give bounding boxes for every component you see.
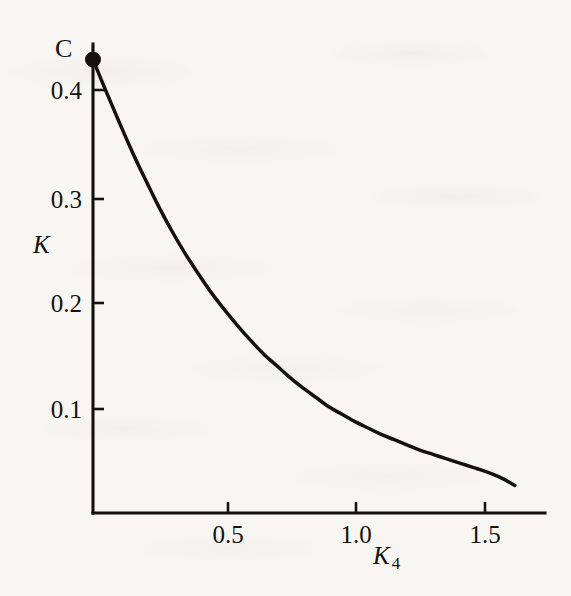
- decay-curve: [93, 60, 515, 486]
- y-tick-label-0.4: 0.4: [18, 78, 82, 103]
- y-tick-label-0.3: 0.3: [18, 187, 82, 212]
- y-tick-label-0.1: 0.1: [18, 397, 82, 422]
- x-tick-label-0.5: 0.5: [198, 522, 258, 547]
- figure-container: C 0.4 0.3 0.2 0.1 K 0.5 1.0 1.5 K4: [0, 0, 571, 596]
- plot-area: [0, 0, 571, 596]
- x-axis-title-base: K: [373, 542, 390, 569]
- y-tick-label-0.2: 0.2: [18, 291, 82, 316]
- corner-label-c: C: [55, 36, 72, 62]
- curve-start-marker: [86, 52, 101, 67]
- x-axis-title: K4: [373, 543, 398, 568]
- y-axis-title: K: [33, 232, 50, 257]
- x-axis-title-subscript: 4: [392, 554, 401, 573]
- x-tick-label-1.5: 1.5: [455, 522, 515, 547]
